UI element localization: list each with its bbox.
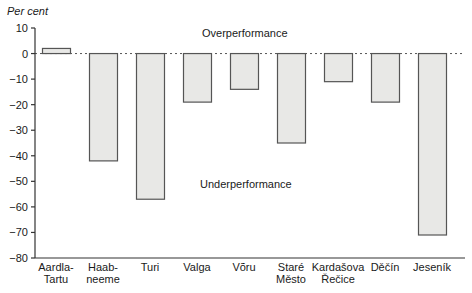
y-tick-label: −60	[0, 201, 28, 213]
bar	[419, 54, 447, 235]
bar	[278, 54, 306, 143]
bar	[43, 48, 71, 53]
bar	[372, 54, 400, 103]
y-tick-label: 0	[0, 48, 28, 60]
y-tick-label: −40	[0, 150, 28, 162]
bar	[90, 54, 118, 161]
y-tick-label: 10	[0, 22, 28, 34]
y-tick-label: −70	[0, 226, 28, 238]
bar	[231, 54, 259, 90]
y-tick-label: −20	[0, 99, 28, 111]
y-tick-label: −50	[0, 175, 28, 187]
x-category-label: Jeseník	[402, 261, 462, 273]
underperformance-annotation: Underperformance	[200, 178, 292, 190]
y-tick-label: −10	[0, 73, 28, 85]
y-tick-label: −80	[0, 252, 28, 264]
bar	[184, 54, 212, 103]
overperformance-annotation: Overperformance	[202, 27, 288, 39]
y-tick-label: −30	[0, 124, 28, 136]
bar	[137, 54, 165, 200]
bar	[325, 54, 353, 82]
bar-chart: Per cent Overperformance Underperformanc…	[0, 0, 472, 293]
plot-area	[0, 0, 472, 293]
